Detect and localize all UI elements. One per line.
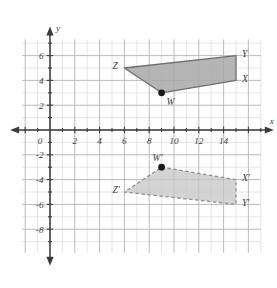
x-tick-label-8: 8 (147, 136, 152, 146)
y-tick-label-4: 4 (39, 76, 44, 86)
x-tick-label-12: 12 (194, 136, 204, 146)
x-tick-label-10: 10 (169, 136, 179, 146)
vertex-label-y-prime: Y' (242, 197, 250, 208)
vertex-label-z: Z (112, 60, 118, 71)
vertex-label-x-prime: X' (241, 172, 251, 183)
x-tick-label-2: 2 (73, 136, 78, 146)
origin-label: 0 (38, 136, 43, 146)
vertex-label-w-prime: W' (153, 152, 164, 163)
coordinate-grid-svg: WXYZW'X'Y'Z' 2468101214642-2-4-6-8 x y 0 (0, 0, 277, 288)
vertex-label-w: W (167, 96, 176, 107)
y-tick-label-neg2: -2 (36, 150, 44, 160)
y-tick-label-6: 6 (39, 51, 44, 61)
x-tick-label-14: 14 (219, 136, 229, 146)
y-tick-label-neg8: -8 (36, 225, 44, 235)
y-tick-label-2: 2 (39, 101, 44, 111)
vertex-label-x: X (241, 73, 249, 84)
y-tick-label-neg4: -4 (36, 175, 44, 185)
coordinate-plane-figure: WXYZW'X'Y'Z' 2468101214642-2-4-6-8 x y 0 (0, 0, 277, 288)
x-tick-label-6: 6 (122, 136, 127, 146)
y-tick-label-neg6: -6 (36, 200, 44, 210)
x-tick-label-4: 4 (97, 136, 102, 146)
vertex-label-z-prime: Z' (112, 184, 120, 195)
